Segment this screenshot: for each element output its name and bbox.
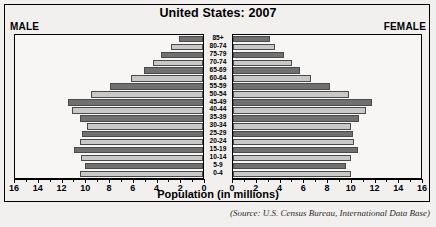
bar-female-65-69 (233, 67, 300, 74)
table-row (15, 170, 203, 178)
population-pyramid-chart: United States: 2007 MALE FEMALE 85+80-74… (0, 0, 436, 227)
table-row (233, 43, 421, 51)
table-row (233, 138, 421, 146)
age-label: 60-64 (204, 74, 232, 82)
table-row (15, 75, 203, 83)
axis-tick (50, 179, 51, 182)
table-row (15, 162, 203, 170)
table-row (15, 67, 203, 75)
bar-male-60-64 (131, 75, 203, 82)
age-label: 55-59 (204, 82, 232, 90)
axis-tick (26, 179, 27, 182)
table-row (233, 91, 421, 99)
bar-male-5-9 (85, 163, 203, 170)
table-row (233, 67, 421, 75)
table-row (233, 170, 421, 178)
table-row (15, 43, 203, 51)
table-row (15, 51, 203, 59)
table-row (15, 83, 203, 91)
bar-female-15-19 (233, 147, 358, 154)
bar-female-35-39 (233, 115, 359, 122)
axis-tick (268, 179, 269, 182)
age-label: 10-14 (204, 153, 232, 161)
table-row (233, 51, 421, 59)
table-row (15, 114, 203, 122)
bar-male-50-54 (91, 91, 203, 98)
table-row (233, 35, 421, 43)
table-row (15, 154, 203, 162)
age-label: 80-74 (204, 42, 232, 50)
plot-area: 85+80-7475-7970-7465-6960-6455-5950-5445… (14, 34, 422, 179)
table-row (15, 91, 203, 99)
axis-tick (244, 179, 245, 182)
table-row (233, 162, 421, 170)
table-row (233, 114, 421, 122)
age-label: 85+ (204, 34, 232, 42)
age-label: 15-19 (204, 145, 232, 153)
bar-female-45-49 (233, 99, 372, 106)
bar-male-25-29 (82, 131, 203, 138)
female-panel (232, 34, 422, 179)
axis-tick (386, 179, 387, 182)
bar-male-40-44 (72, 107, 203, 114)
axis-tick (192, 179, 193, 182)
male-panel (14, 34, 204, 179)
bar-male-65-69 (144, 67, 203, 74)
source-note: (Source: U.S. Census Bureau, Internation… (230, 208, 430, 218)
male-bar-rows (15, 35, 203, 178)
bar-male-45-49 (68, 99, 203, 106)
bar-female-30-34 (233, 123, 351, 130)
bar-female-40-44 (233, 107, 366, 114)
age-label: 20-24 (204, 137, 232, 145)
table-row (233, 99, 421, 107)
table-row (233, 146, 421, 154)
age-label: 50-54 (204, 90, 232, 98)
male-side-label: MALE (10, 21, 39, 32)
axis-tick (410, 179, 411, 182)
bar-female-5-9 (233, 163, 346, 170)
axis-tick (315, 179, 316, 182)
bar-male-20-24 (80, 139, 204, 146)
bar-male-80-74 (171, 44, 203, 51)
table-row (233, 83, 421, 91)
bar-male-35-39 (80, 115, 204, 122)
bar-female-20-24 (233, 139, 354, 146)
table-row (233, 122, 421, 130)
bar-female-0-4 (233, 171, 351, 178)
axis-tick (145, 179, 146, 182)
table-row (233, 154, 421, 162)
table-row (233, 59, 421, 67)
table-row (15, 99, 203, 107)
table-row (233, 75, 421, 83)
table-row (15, 138, 203, 146)
table-row (15, 146, 203, 154)
axis-tick (363, 179, 364, 182)
bar-female-85plus (233, 36, 270, 43)
table-row (15, 35, 203, 43)
bar-female-10-14 (233, 155, 351, 162)
age-label: 25-29 (204, 129, 232, 137)
bar-male-85plus (179, 36, 203, 43)
bar-female-25-29 (233, 131, 353, 138)
bar-female-50-54 (233, 91, 349, 98)
bar-female-75-79 (233, 52, 284, 59)
axis-tick (339, 179, 340, 182)
age-label: 75-79 (204, 50, 232, 58)
bar-female-80-74 (233, 44, 275, 51)
female-side-label: FEMALE (384, 21, 426, 32)
x-axis-title: Population (in millions) (0, 188, 436, 200)
age-label: 40-44 (204, 105, 232, 113)
age-label: 30-34 (204, 121, 232, 129)
age-group-labels: 85+80-7475-7970-7465-6960-6455-5950-5445… (204, 34, 232, 179)
bar-male-55-59 (110, 83, 203, 90)
axis-tick (291, 179, 292, 182)
axis-tick (73, 179, 74, 182)
axis-tick (168, 179, 169, 182)
table-row (233, 130, 421, 138)
age-label: 35-39 (204, 113, 232, 121)
age-label: 0-4 (204, 169, 232, 177)
table-row (15, 106, 203, 114)
table-row (15, 122, 203, 130)
age-label: 65-69 (204, 66, 232, 74)
bar-male-70-74 (153, 60, 203, 67)
